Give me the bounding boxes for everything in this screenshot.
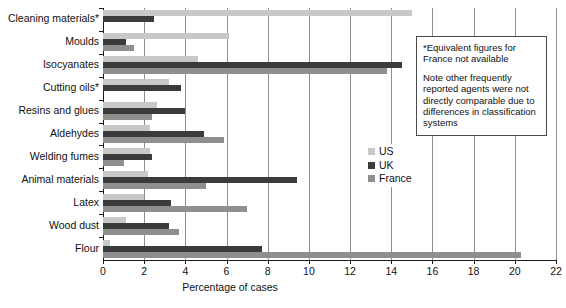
category-label: Resins and glues — [18, 105, 99, 116]
note-box: *Equivalent figures for France not avail… — [416, 36, 547, 136]
bar-group — [103, 191, 556, 214]
bar-fr — [103, 160, 124, 166]
legend-swatch-icon-france — [368, 175, 375, 182]
x-tick-12 — [350, 260, 351, 264]
category-label: Cleaning materials* — [8, 13, 99, 24]
x-tick-10 — [309, 260, 310, 264]
note-paragraph-1: *Equivalent figures for France not avail… — [423, 42, 540, 65]
bar-fr — [103, 45, 134, 51]
x-tick-4 — [185, 260, 186, 264]
category-label: Cutting oils* — [43, 82, 99, 93]
x-tick-20 — [515, 260, 516, 264]
bar-uk — [103, 85, 181, 91]
legend-swatch-icon-us — [368, 148, 375, 155]
category-label: Welding fumes — [30, 151, 99, 162]
bar-fr — [103, 252, 521, 258]
category-label: Wood dust — [49, 220, 99, 231]
bar-fr — [103, 137, 224, 143]
legend-label-us: US — [379, 145, 394, 159]
bar-group — [103, 237, 556, 260]
category-label: Isocyanates — [43, 59, 99, 70]
bar-group — [103, 145, 556, 168]
legend-label-france: France — [379, 172, 412, 186]
bar-fr — [103, 183, 206, 189]
x-tick-14 — [391, 260, 392, 264]
x-tick-label-14: 14 — [376, 265, 406, 277]
x-axis-title: Percentage of cases — [0, 281, 560, 293]
note-paragraph-2: Note other frequently reported agents we… — [423, 72, 540, 129]
legend-swatch-icon-uk — [368, 162, 375, 169]
bar-group — [103, 214, 556, 237]
x-tick-label-2: 2 — [129, 265, 159, 277]
x-axis-title-label: Percentage of cases — [182, 281, 278, 293]
bar-group — [103, 168, 556, 191]
bar-group — [103, 8, 556, 31]
bar-uk — [103, 16, 154, 22]
bar-fr — [103, 206, 247, 212]
legend-item-france: France — [368, 172, 412, 186]
x-tick-label-10: 10 — [294, 265, 324, 277]
legend-item-us: US — [368, 145, 412, 159]
x-tick-2 — [144, 260, 145, 264]
x-tick-0 — [103, 260, 104, 264]
bar-fr — [103, 68, 387, 74]
bar-fr — [103, 229, 179, 235]
x-tick-6 — [227, 260, 228, 264]
x-tick-label-8: 8 — [253, 265, 283, 277]
x-tick-label-16: 16 — [417, 265, 447, 277]
category-label: Moulds — [65, 36, 99, 47]
category-label: Flour — [75, 243, 99, 254]
category-label: Animal materials — [21, 174, 99, 185]
x-tick-18 — [474, 260, 475, 264]
x-tick-label-22: 22 — [541, 265, 566, 277]
category-axis: Cleaning materials*MouldsIsocyanatesCutt… — [0, 8, 99, 260]
x-tick-label-12: 12 — [335, 265, 365, 277]
legend-label-uk: UK — [379, 159, 394, 173]
x-axis-line — [103, 260, 557, 261]
x-tick-label-18: 18 — [459, 265, 489, 277]
x-tick-label-4: 4 — [170, 265, 200, 277]
x-tick-8 — [268, 260, 269, 264]
x-tick-label-0: 0 — [88, 265, 118, 277]
category-label: Aldehydes — [50, 128, 99, 139]
legend-item-uk: UK — [368, 159, 412, 173]
x-tick-22 — [556, 260, 557, 264]
x-tick-label-6: 6 — [212, 265, 242, 277]
bar-fr — [103, 114, 152, 120]
legend: US UK France — [366, 144, 414, 187]
category-label: Latex — [73, 197, 99, 208]
gridline-22 — [556, 8, 557, 260]
x-tick-label-20: 20 — [500, 265, 530, 277]
x-tick-16 — [432, 260, 433, 264]
